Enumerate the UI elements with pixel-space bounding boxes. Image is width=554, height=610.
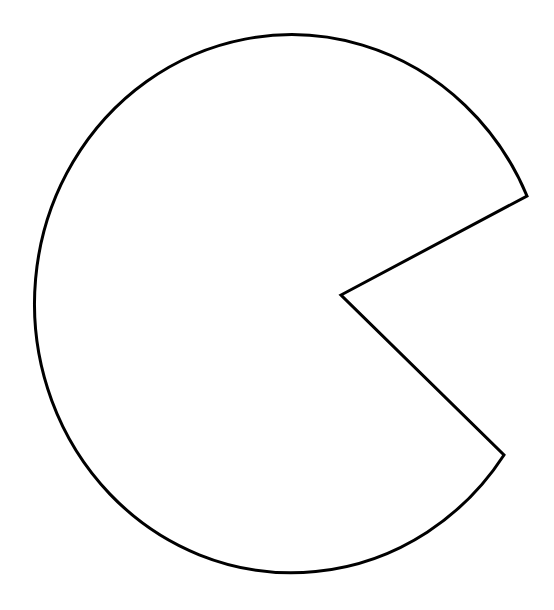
notched-circle-outline xyxy=(35,35,527,573)
pacman-shape-figure xyxy=(0,0,554,610)
